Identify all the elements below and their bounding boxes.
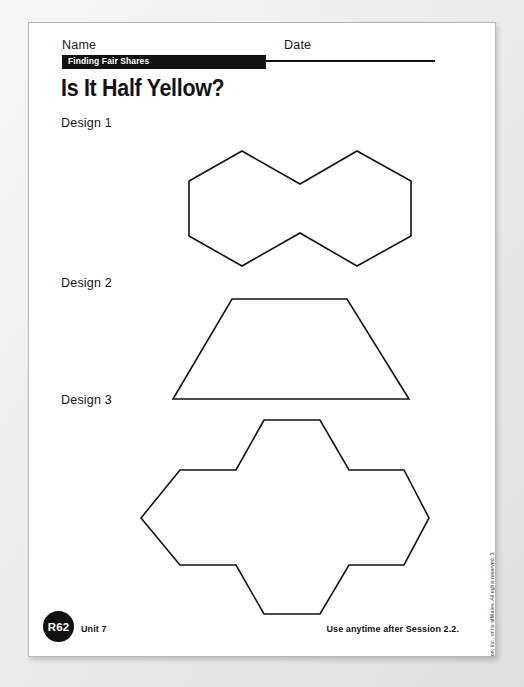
unit-label: Unit 7 (81, 624, 107, 634)
hexagon-cross-outline (141, 420, 429, 614)
page-number-badge: R62 (43, 611, 74, 642)
session-note: Use anytime after Session 2.2. (326, 624, 459, 634)
design-3-shape (29, 23, 496, 657)
copyright-notice: Copyright © by Pearson Education, Inc., … (489, 552, 495, 657)
worksheet-page: Name Date Finding Fair Shares Is It Half… (28, 22, 496, 657)
